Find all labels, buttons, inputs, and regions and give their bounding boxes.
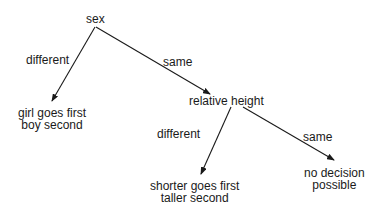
node-relative-height-label: relative height [189,94,264,108]
edge-sex-same [96,27,210,94]
edge-label-height-same: same [303,131,332,143]
leaf-line-2: boy second [18,119,86,131]
leaf-line-2: possible [304,179,365,191]
leaf-node-no-decision: no decision possible [304,167,365,191]
root-node-sex: sex [86,13,105,25]
edge-height-different [201,107,231,174]
leaf-line-2: taller second [150,192,239,204]
leaf-node-girl-first: girl goes first boy second [18,107,86,131]
leaf-node-shorter-first: shorter goes first taller second [150,180,239,204]
node-relative-height: relative height [189,95,264,107]
edge-label-sex-same: same [163,56,192,68]
root-node-label: sex [86,12,105,26]
edge-label-height-different: different [157,128,200,140]
edge-label-sex-different: different [26,54,69,66]
